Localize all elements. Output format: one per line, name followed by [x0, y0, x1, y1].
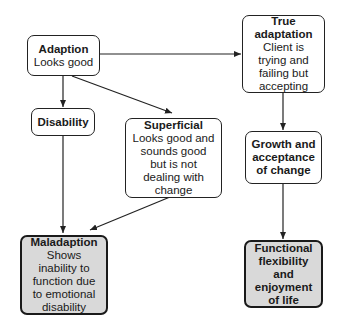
- node-superficial: Superficial Looks good and sounds good b…: [125, 118, 222, 198]
- node-adaption: Adaption Looks good: [27, 35, 100, 76]
- diagram-canvas: Adaption Looks good Disability Superfici…: [0, 0, 345, 322]
- node-maladaption-desc: Shows inability to function due to emoti…: [27, 249, 101, 314]
- node-superficial-desc: Looks good and sounds good but is not de…: [131, 132, 216, 197]
- node-adaption-desc: Looks good: [34, 56, 93, 69]
- node-functional: Functional flexibility and enjoyment of …: [244, 240, 323, 308]
- node-maladaption-title: Maladaption: [30, 236, 97, 249]
- node-adaption-title: Adaption: [39, 43, 89, 56]
- arrow-superficial-to-maladaption: [90, 197, 170, 230]
- node-superficial-title: Superficial: [144, 119, 203, 132]
- node-disability-title: Disability: [37, 116, 88, 129]
- node-growth: Growth and acceptance of change: [245, 131, 322, 184]
- node-true-adaptation-title: True adaptation: [248, 15, 319, 41]
- node-growth-title: Growth and acceptance of change: [250, 138, 317, 177]
- node-true-adaptation-desc: Client is trying and failing but accepti…: [248, 41, 319, 93]
- node-true-adaptation: True adaptation Client is trying and fai…: [242, 15, 325, 93]
- node-maladaption: Maladaption Shows inability to function …: [20, 235, 108, 315]
- node-functional-title: Functional flexibility and enjoyment of …: [249, 242, 318, 307]
- node-disability: Disability: [31, 108, 95, 136]
